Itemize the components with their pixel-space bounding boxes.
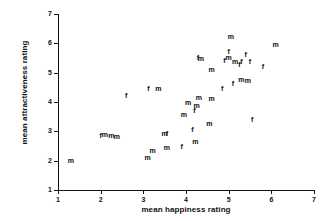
data-point-f: f (178, 143, 186, 150)
data-point-f: f (246, 58, 254, 65)
x-tick-label-3: 3 (135, 195, 151, 204)
data-point-f: f (220, 57, 228, 64)
data-point-m: m (272, 41, 280, 48)
data-point-f: f (191, 107, 199, 114)
data-point-m: m (195, 94, 203, 101)
y-tick-label-3: 3 (38, 127, 52, 135)
y-tick-label-6: 6 (38, 39, 52, 47)
data-point-f: f (237, 58, 245, 65)
data-point-m: m (208, 95, 216, 102)
data-point-f: f (163, 130, 171, 137)
data-point-f: f (97, 132, 105, 139)
data-point-m: m (227, 33, 235, 40)
data-point-f: f (248, 116, 256, 123)
y-tick-5 (54, 73, 58, 74)
y-tick-7 (54, 14, 58, 15)
x-tick-label-1: 1 (50, 195, 66, 204)
x-tick-5 (229, 190, 230, 194)
x-tick-1 (58, 190, 59, 194)
x-tick-4 (186, 190, 187, 194)
data-point-m: m (208, 66, 216, 73)
x-tick-label-6: 6 (263, 195, 279, 204)
data-point-f: f (259, 63, 267, 70)
data-point-f: f (194, 54, 202, 61)
y-tick-label-4: 4 (38, 98, 52, 106)
x-tick-7 (314, 190, 315, 194)
data-point-f: f (144, 85, 152, 92)
data-point-f: f (218, 85, 226, 92)
x-tick-2 (101, 190, 102, 194)
y-tick-label-5: 5 (38, 69, 52, 77)
data-point-m: m (205, 120, 213, 127)
y-tick-label-2: 2 (38, 157, 52, 165)
data-point-f: f (122, 92, 130, 99)
data-point-f: f (229, 80, 237, 87)
y-tick-1 (54, 190, 58, 191)
x-tick-label-2: 2 (93, 195, 109, 204)
data-point-f: f (242, 51, 250, 58)
data-point-m: m (149, 147, 157, 154)
x-tick-label-7: 7 (306, 195, 322, 204)
y-tick-6 (54, 43, 58, 44)
data-point-m: m (244, 77, 252, 84)
data-point-m: m (191, 138, 199, 145)
y-tick-label-7: 7 (38, 10, 52, 18)
data-point-f: f (188, 126, 196, 133)
y-axis-title: mean attractiveness rating (20, 5, 29, 181)
x-tick-label-4: 4 (178, 195, 194, 204)
data-point-m: m (113, 133, 121, 140)
data-point-m: m (163, 144, 171, 151)
y-tick-label-1: 1 (38, 186, 52, 194)
scatter-plot-figure: 12345671234567 mmmmmmmmmmmmmmmmmmmmmmmmf… (0, 0, 328, 221)
x-axis-title: mean happiness rating (58, 205, 314, 214)
x-tick-3 (143, 190, 144, 194)
y-tick-3 (54, 131, 58, 132)
data-point-m: m (180, 111, 188, 118)
data-point-m: m (144, 154, 152, 161)
x-tick-label-5: 5 (221, 195, 237, 204)
data-point-f: f (225, 48, 233, 55)
data-point-m: m (154, 85, 162, 92)
y-axis-line (58, 14, 59, 190)
data-point-m: m (67, 157, 75, 164)
y-tick-2 (54, 161, 58, 162)
x-tick-6 (271, 190, 272, 194)
y-tick-4 (54, 102, 58, 103)
data-point-m: m (184, 99, 192, 106)
